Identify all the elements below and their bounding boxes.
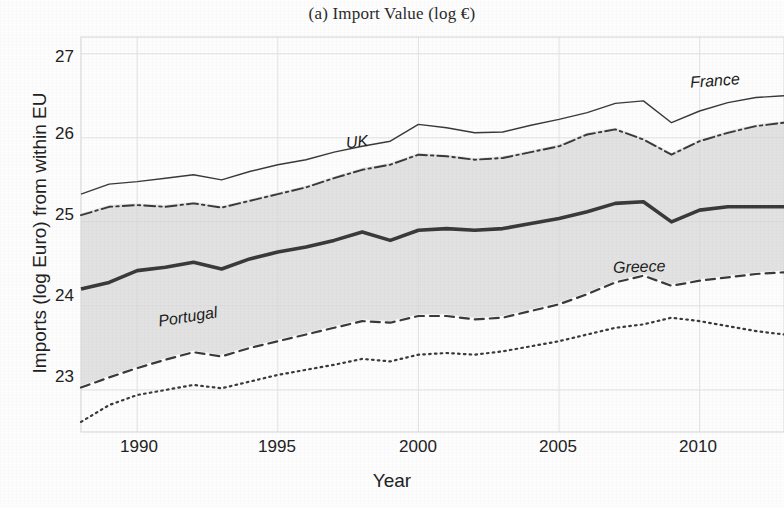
range-band [81, 121, 784, 386]
series-label-france: France [689, 70, 740, 91]
figure-panel: (a) Import Value (log €) Imports (log Eu… [0, 0, 784, 507]
series-label-greece: Greece [613, 257, 666, 277]
series-label-uk: UK [345, 132, 369, 152]
plot-canvas [0, 0, 784, 507]
